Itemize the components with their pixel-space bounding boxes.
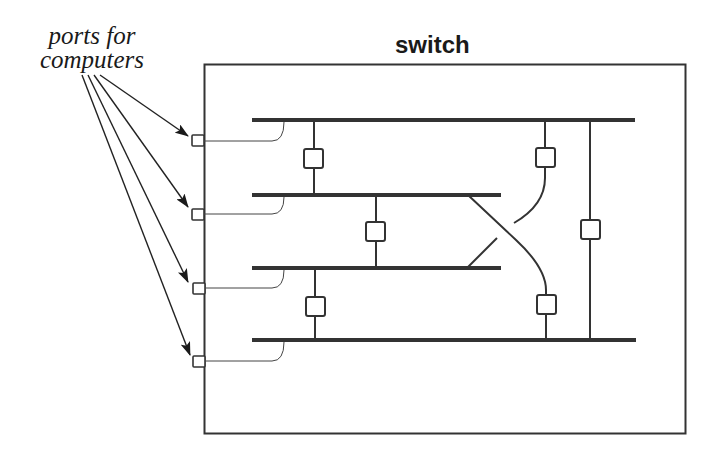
bridge-bus1-bus3-curve-lower: [467, 238, 497, 268]
wire-port-3: [205, 270, 284, 288]
port-1: [192, 135, 204, 146]
bridge-bus1-bus3-curve-upper: [514, 120, 545, 223]
switch-diagram: ports for computers switch: [0, 0, 719, 459]
bridge-box-bus2-bus3: [366, 222, 385, 241]
bridge-box-bus1-bus2: [304, 149, 323, 168]
bridge-box-bus1-bus4: [581, 220, 600, 239]
diagram-graphics: [0, 0, 719, 459]
bridge-boxes: [304, 148, 600, 316]
port-3: [193, 283, 205, 294]
wire-port-2: [204, 197, 284, 214]
port-4: [193, 356, 205, 367]
wire-port-4: [205, 342, 284, 361]
annotation-arrows: [82, 75, 190, 355]
port-wires: [204, 122, 284, 361]
arrow-to-port-4: [82, 75, 190, 355]
arrow-to-port-3: [88, 75, 188, 282]
bridge-box-bus3-bus4: [306, 297, 325, 316]
bridge-box-bus1-bus3: [536, 148, 555, 167]
bridge-box-bus2-bus4: [537, 295, 556, 314]
port-2: [192, 209, 204, 220]
ports: [192, 135, 205, 367]
wire-port-1: [204, 122, 284, 141]
